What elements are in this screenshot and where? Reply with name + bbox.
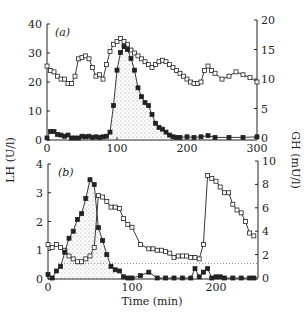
filled-square-marker	[147, 270, 151, 274]
open-square-marker	[159, 248, 163, 252]
filled-square-marker	[119, 50, 123, 54]
open-square-marker	[214, 179, 218, 183]
open-square-marker	[151, 247, 155, 251]
left-tick-label: 0	[35, 134, 42, 147]
chart: 010203040051015200100200300(a) 012340246…	[0, 0, 305, 321]
filled-square-marker	[108, 130, 112, 134]
filled-square-marker	[197, 275, 201, 279]
filled-square-marker	[105, 253, 109, 257]
open-square-marker	[168, 251, 172, 255]
right-tick-label: 10	[262, 155, 276, 168]
filled-square-marker	[71, 229, 75, 233]
panel-label: (a)	[55, 26, 70, 39]
left-tick-label: 20	[28, 76, 42, 89]
shaded-area	[61, 180, 116, 279]
left-tick-label: 0	[36, 273, 43, 286]
open-square-marker	[206, 174, 210, 178]
x-tick-label: 100	[122, 281, 143, 294]
x-tick-label: 300	[247, 142, 268, 155]
left-tick-label: 1	[36, 244, 43, 257]
filled-square-marker	[231, 276, 235, 280]
open-square-marker	[92, 245, 96, 249]
open-square-marker	[70, 81, 74, 85]
open-square-marker	[243, 220, 247, 224]
right-tick-label: 4	[262, 225, 269, 238]
left-tick-label: 4	[36, 158, 43, 171]
panel-b: 0123402468100100200(b)	[36, 155, 276, 294]
filled-square-marker	[252, 276, 256, 280]
filled-square-marker	[46, 272, 50, 276]
open-square-marker	[189, 255, 193, 259]
x-tick-label: 0	[44, 142, 51, 155]
open-square-marker	[122, 217, 126, 221]
open-square-marker	[63, 77, 67, 81]
open-square-marker	[231, 202, 235, 206]
filled-square-marker	[129, 56, 133, 60]
filled-square-marker	[241, 135, 245, 139]
open-square-marker	[130, 225, 134, 229]
filled-square-marker	[96, 226, 100, 230]
filled-square-marker	[63, 250, 67, 254]
left-tick-label: 2	[36, 216, 43, 229]
filled-square-marker	[109, 264, 113, 268]
open-square-marker	[105, 199, 109, 203]
open-square-marker	[59, 245, 63, 249]
open-square-marker	[241, 73, 245, 77]
filled-square-marker	[54, 269, 58, 273]
filled-square-marker	[84, 196, 88, 200]
filled-square-marker	[227, 135, 231, 139]
filled-square-marker	[126, 48, 130, 52]
right-tick-label: 6	[262, 202, 269, 215]
open-square-marker	[222, 191, 226, 195]
open-square-marker	[201, 243, 205, 247]
right-tick-label: 8	[262, 178, 269, 191]
filled-square-marker	[239, 276, 243, 280]
open-square-marker	[113, 205, 117, 209]
filled-square-marker	[112, 104, 116, 108]
open-square-marker	[235, 208, 239, 212]
open-square-marker	[197, 257, 201, 261]
filled-square-marker	[117, 269, 121, 273]
open-square-marker	[88, 254, 92, 258]
filled-square-marker	[201, 270, 205, 274]
filled-square-marker	[199, 135, 203, 139]
right-tick-label: 20	[261, 14, 275, 27]
filled-square-marker	[105, 134, 109, 138]
filled-square-marker	[214, 275, 218, 279]
x-tick-label: 0	[45, 281, 52, 294]
open-square-marker	[206, 64, 210, 68]
filled-square-marker	[80, 212, 84, 216]
right-tick-label: 15	[261, 44, 275, 57]
filled-square-marker	[75, 218, 79, 222]
filled-square-marker	[193, 267, 197, 271]
open-square-marker	[155, 248, 159, 252]
open-square-marker	[138, 243, 142, 247]
filled-square-marker	[248, 276, 252, 280]
y-axis-left-label: LH (U/l)	[4, 137, 17, 182]
open-square-marker	[193, 255, 197, 259]
open-square-marker	[98, 73, 102, 77]
open-square-marker	[50, 245, 54, 249]
filled-square-marker	[113, 268, 117, 272]
open-square-marker	[213, 71, 217, 75]
filled-square-marker	[88, 178, 92, 182]
filled-square-marker	[147, 104, 151, 108]
filled-square-marker	[115, 68, 119, 72]
open-square-marker	[46, 243, 50, 247]
left-tick-label: 3	[36, 187, 43, 200]
filled-square-marker	[101, 239, 105, 243]
filled-square-marker	[178, 135, 182, 139]
y-axis-right-label: GH (mU/l)	[289, 131, 302, 188]
open-square-marker	[164, 250, 168, 254]
filled-square-marker	[180, 276, 184, 280]
open-square-marker	[108, 50, 112, 54]
filled-square-marker	[189, 276, 193, 280]
filled-square-marker	[122, 275, 126, 279]
x-tick-label: 100	[107, 142, 128, 155]
filled-square-marker	[172, 276, 176, 280]
filled-square-marker	[192, 135, 196, 139]
open-square-marker	[54, 243, 58, 247]
open-square-marker	[109, 205, 113, 209]
right-tick-label: 5	[261, 103, 268, 116]
x-tick-label: 200	[206, 281, 227, 294]
